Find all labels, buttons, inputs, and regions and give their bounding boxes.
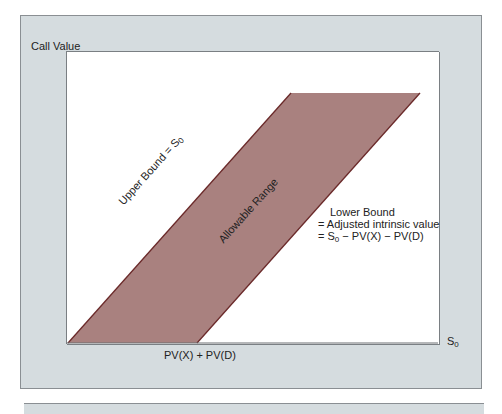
lower-bound-label-line3: = S0 − PV(X) − PV(D) xyxy=(318,230,424,246)
x-intercept-label: PV(X) + PV(D) xyxy=(164,349,236,362)
x-axis-label: S0 xyxy=(447,335,459,351)
